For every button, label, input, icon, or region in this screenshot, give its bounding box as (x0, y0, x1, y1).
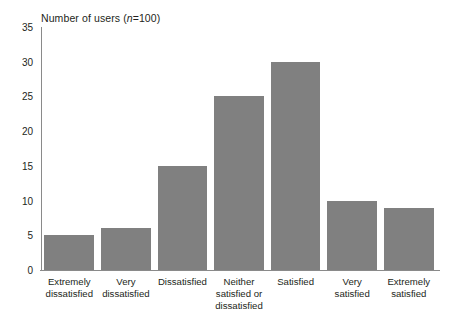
bar-slot (324, 27, 381, 270)
plot-area (41, 27, 437, 270)
x-axis-category-label-line: Satisfied (268, 276, 323, 288)
y-tick-label: 30 (22, 56, 33, 67)
bar[interactable] (44, 235, 94, 270)
bar[interactable] (158, 166, 208, 270)
bar-chart-figure: Number of users (n=100) 05101520253035 E… (0, 0, 451, 324)
x-axis-category-label-line: Very (325, 276, 380, 288)
y-tick-label: 20 (22, 126, 33, 137)
bar-slot (211, 27, 268, 270)
chart-title: Number of users (n=100) (41, 12, 160, 24)
x-axis-category-label-line: dissatisfied (212, 300, 267, 312)
x-axis-category-label-line: Very (99, 276, 154, 288)
x-axis-category-label-line: Neither (212, 276, 267, 288)
bar[interactable] (271, 62, 321, 270)
bar-slot (267, 27, 324, 270)
y-axis-tick-labels: 05101520253035 (0, 0, 33, 324)
x-axis-category-label: Extremelydissatisfied (41, 276, 98, 313)
x-axis-category-label-line: Dissatisfied (155, 276, 210, 288)
bar-slot (41, 27, 98, 270)
bar[interactable] (101, 228, 151, 270)
x-axis-category-label-line: dissatisfied (42, 288, 97, 300)
bar-slot (98, 27, 155, 270)
bars-layer (41, 27, 437, 270)
y-tick-label: 5 (27, 230, 33, 241)
y-tick-label: 35 (22, 22, 33, 33)
y-tick-label: 15 (22, 160, 33, 171)
x-axis-category-label-line: Extremely (381, 276, 436, 288)
chart-title-suffix: =100) (133, 12, 161, 24)
x-axis-category-label-line: dissatisfied (99, 288, 154, 300)
y-tick-label: 25 (22, 91, 33, 102)
x-axis-category-label: Extremelysatisfied (380, 276, 437, 313)
x-axis-line (40, 270, 440, 271)
x-axis-category-label-line: Extremely (42, 276, 97, 288)
x-axis-category-label-line: satisfied or (212, 288, 267, 300)
x-axis-category-label: Dissatisfied (154, 276, 211, 313)
x-axis-category-label: Satisfied (267, 276, 324, 313)
y-tick-label: 0 (27, 265, 33, 276)
bar[interactable] (327, 201, 377, 270)
x-axis-category-labels: ExtremelydissatisfiedVerydissatisfiedDis… (41, 276, 437, 313)
x-axis-category-label-line: satisfied (381, 288, 436, 300)
bar-slot (154, 27, 211, 270)
chart-title-prefix: Number of users ( (41, 12, 127, 24)
x-axis-category-label-line: satisfied (325, 288, 380, 300)
x-axis-category-label: Verysatisfied (324, 276, 381, 313)
x-axis-category-label: Neithersatisfied ordissatisfied (211, 276, 268, 313)
bar[interactable] (384, 208, 434, 270)
x-axis-category-label: Verydissatisfied (98, 276, 155, 313)
bar-slot (380, 27, 437, 270)
y-tick-label: 10 (22, 195, 33, 206)
bar[interactable] (214, 96, 264, 270)
